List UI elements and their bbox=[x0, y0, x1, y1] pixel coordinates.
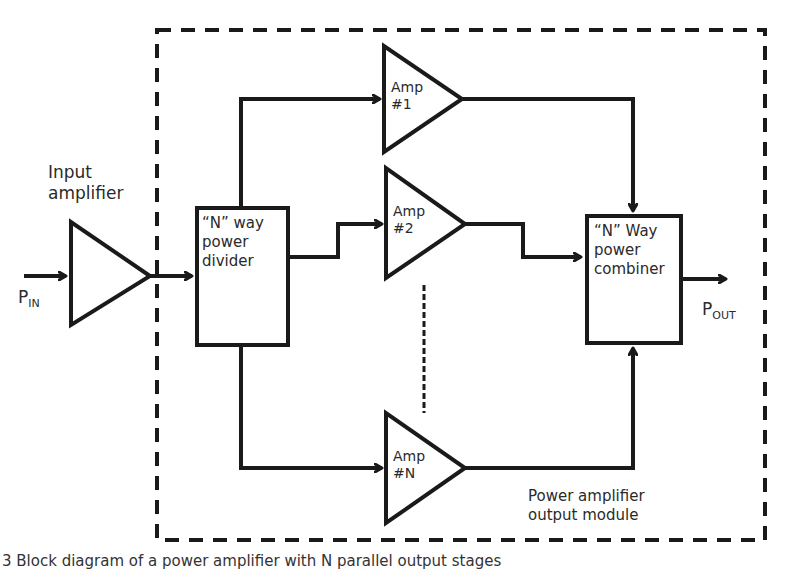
input-amplifier-label: Input amplifier bbox=[48, 162, 123, 204]
ampN-to-combiner-line bbox=[465, 348, 633, 468]
amp2-label-line1: Amp bbox=[393, 203, 425, 220]
figure-caption: 3 Block diagram of a power amplifier wit… bbox=[2, 552, 501, 570]
divider-label-line2: power bbox=[202, 233, 264, 252]
input-power-label: PIN bbox=[18, 287, 40, 314]
amp2-label: Amp #2 bbox=[393, 203, 425, 237]
divider-label-line1: “N” way bbox=[202, 214, 264, 233]
output-power-symbol: P bbox=[702, 299, 712, 319]
amp1-label-line1: Amp bbox=[391, 79, 423, 96]
ampN-label-line2: #N bbox=[393, 465, 425, 482]
amp1-label: Amp #1 bbox=[391, 79, 423, 113]
amp1-to-combiner-line bbox=[462, 99, 633, 211]
divider-to-amp1-line bbox=[241, 99, 380, 208]
power-divider-label: “N” way power divider bbox=[202, 214, 264, 271]
amp1-label-line2: #1 bbox=[391, 96, 423, 113]
output-power-label: POUT bbox=[702, 299, 736, 326]
module-label-line1: Power amplifier bbox=[528, 487, 645, 506]
output-power-subscript: OUT bbox=[712, 309, 735, 322]
input-power-subscript: IN bbox=[28, 297, 39, 310]
amp2-label-line2: #2 bbox=[393, 220, 425, 237]
input-amplifier-triangle bbox=[71, 222, 150, 325]
combiner-label-line1: “N” Way bbox=[594, 222, 665, 241]
divider-label-line3: divider bbox=[202, 252, 264, 271]
divider-to-ampN-line bbox=[241, 345, 382, 468]
input-amplifier-label-line1: Input bbox=[48, 162, 123, 183]
ampN-label: Amp #N bbox=[393, 448, 425, 482]
combiner-label-line2: power bbox=[594, 241, 665, 260]
amp2-to-combiner-line bbox=[465, 224, 581, 257]
ampN-label-line1: Amp bbox=[393, 448, 425, 465]
input-amplifier-label-line2: amplifier bbox=[48, 183, 123, 204]
output-module-label: Power amplifier output module bbox=[528, 487, 645, 525]
input-power-symbol: P bbox=[18, 287, 28, 307]
divider-to-amp2-line bbox=[288, 224, 382, 257]
power-combiner-label: “N” Way power combiner bbox=[594, 222, 665, 279]
combiner-label-line3: combiner bbox=[594, 260, 665, 279]
module-label-line2: output module bbox=[528, 506, 645, 525]
